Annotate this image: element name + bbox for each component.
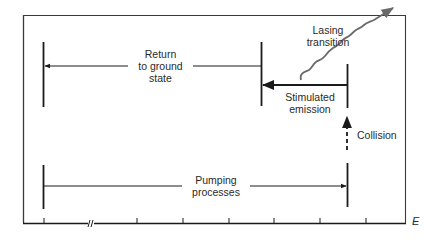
diagram-canvas: [0, 0, 436, 244]
energy-axis: [23, 218, 406, 227]
axis-break-icon: [88, 220, 93, 227]
pumping-processes-label: Pumping processes: [182, 174, 250, 198]
energy-axis-label: E: [412, 215, 419, 227]
stimulated-emission-label: Stimulated emission: [278, 91, 342, 115]
collision-label: Collision: [357, 129, 397, 141]
lasing-transition-label: Lasing transition: [298, 24, 358, 48]
return-to-ground-label: Return to ground state: [128, 48, 193, 84]
